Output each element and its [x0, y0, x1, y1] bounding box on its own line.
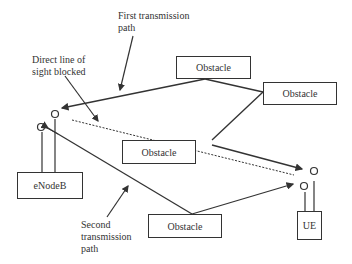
- obstacle-bottom-label: Obstacle: [168, 221, 203, 232]
- obstacle-right-box: Obstacle: [263, 82, 337, 105]
- second-path-label-line1: Second: [81, 219, 132, 231]
- second-path-label-line3: path: [81, 243, 132, 255]
- second-path-pointer-arrow: [107, 186, 128, 217]
- enodeb-label: eNodeB: [34, 180, 67, 191]
- obstacle-top-box: Obstacle: [176, 56, 251, 79]
- enodeb-antenna-icon: [38, 111, 59, 174]
- blocked-pointer-arrow: [65, 76, 98, 121]
- direct-blocked-label: Direct line of sight blocked: [32, 54, 86, 78]
- obstacle-mid-label: Obstacle: [142, 147, 177, 158]
- obstacle-right-label: Obstacle: [283, 88, 318, 99]
- first-path-label: First transmission path: [118, 10, 189, 34]
- direct-blocked-label-line1: Direct line of: [32, 54, 86, 66]
- second-path-label-line2: transmission: [81, 231, 132, 243]
- ue-antenna-icon: [301, 168, 318, 212]
- second-path-label: Second transmission path: [81, 219, 132, 255]
- obstacle-top-label: Obstacle: [196, 62, 231, 73]
- obstacle-mid-box: Obstacle: [122, 140, 196, 164]
- ue-box: UE: [297, 211, 322, 240]
- first-path-label-line2: path: [118, 22, 189, 34]
- direct-blocked-label-line2: sight blocked: [32, 66, 86, 78]
- ue-label: UE: [303, 220, 316, 231]
- diagram-canvas: First transmission path Direct line of s…: [0, 0, 352, 264]
- enodeb-box: eNodeB: [17, 172, 83, 199]
- first-path-label-line1: First transmission: [118, 10, 189, 22]
- first-path-pointer-arrow: [120, 36, 133, 90]
- obstacle-bottom-box: Obstacle: [148, 214, 222, 238]
